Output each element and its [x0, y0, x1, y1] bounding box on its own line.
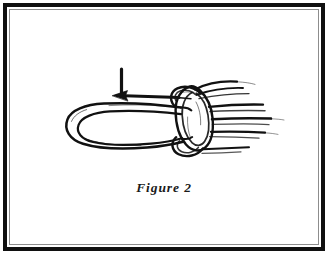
rope-bight-loop [66, 103, 183, 148]
figure-page: Figure 2 [0, 0, 332, 269]
ink-group [66, 69, 284, 156]
figure-illustration-area: Figure 2 [9, 9, 319, 245]
figure-caption: Figure 2 [9, 180, 319, 196]
rope-knot-illustration [9, 9, 319, 245]
